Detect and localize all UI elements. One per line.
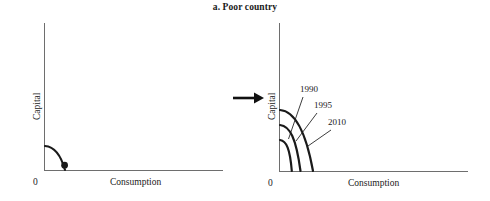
figure-canvas xyxy=(0,0,490,201)
right-panel xyxy=(279,23,468,172)
right-panel-frontier-curve-2010 xyxy=(280,140,292,171)
left-panel-origin-label: 0 xyxy=(33,177,38,187)
curve-label-1995: 1995 xyxy=(314,100,332,110)
right-panel-origin-label: 0 xyxy=(268,178,273,188)
left-panel-equilibrium-point-marker xyxy=(61,162,68,169)
figure-container: a. Poor country xyxy=(0,0,490,201)
transition-arrow xyxy=(233,93,264,104)
left-panel-x-axis-label: Consumption xyxy=(110,177,161,187)
leader-line-2010 xyxy=(308,130,331,146)
curve-label-2010: 2010 xyxy=(328,117,346,127)
transition-arrow-head xyxy=(254,93,264,104)
curve-label-1990: 1990 xyxy=(300,84,318,94)
leader-line-1990 xyxy=(289,97,304,139)
left-panel-y-axis-label: Capital xyxy=(32,93,42,120)
left-panel xyxy=(44,23,223,171)
right-panel-x-axis-label: Consumption xyxy=(348,178,399,188)
right-panel-y-axis-label: Capital xyxy=(267,93,277,120)
